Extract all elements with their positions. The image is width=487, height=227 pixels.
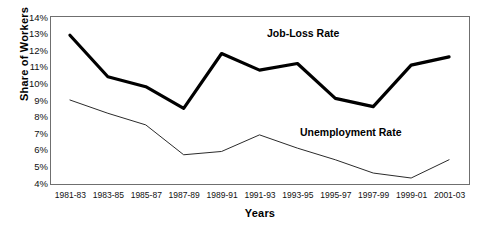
y-tick-label: 8% <box>14 112 48 122</box>
job-loss-unemployment-line-chart: Share of Workers 14%13%12%11%10%9%8%7%6%… <box>0 0 487 227</box>
x-tick-label: 1981-83 <box>55 190 86 200</box>
plot-area <box>50 16 470 185</box>
x-tick-label: 1995-97 <box>320 190 351 200</box>
y-tick-label: 11% <box>14 62 48 72</box>
x-tick-label: 1985-87 <box>131 190 162 200</box>
unemployment-rate-label: Unemployment Rate <box>300 126 402 138</box>
y-axis-tick-labels: 14%13%12%11%10%9%8%7%6%5%4% <box>8 0 48 227</box>
x-axis-tick-labels: 1981-831983-851985-871987-891989-911991-… <box>50 190 470 204</box>
y-tick-label: 13% <box>14 29 48 39</box>
x-tick-label: 1999-01 <box>396 190 427 200</box>
y-tick-label: 7% <box>14 129 48 139</box>
x-tick-label: 2001-03 <box>434 190 465 200</box>
y-tick-label: 6% <box>14 145 48 155</box>
x-tick-label: 1997-99 <box>358 190 389 200</box>
series-lines <box>51 17 468 183</box>
y-tick-label: 5% <box>14 162 48 172</box>
x-tick-label: 1987-89 <box>169 190 200 200</box>
y-tick-label: 12% <box>14 46 48 56</box>
y-tick-label: 10% <box>14 79 48 89</box>
x-tick-label: 1989-91 <box>206 190 237 200</box>
job-loss-rate-line <box>70 35 449 108</box>
job-loss-rate-label: Job-Loss Rate <box>267 27 339 39</box>
x-tick-label: 1991-93 <box>244 190 275 200</box>
x-tick-label: 1993-95 <box>282 190 313 200</box>
unemployment-rate-line <box>70 100 449 178</box>
y-tick-label: 4% <box>14 179 48 189</box>
x-tick-label: 1983-85 <box>93 190 124 200</box>
x-axis-title: Years <box>50 207 470 219</box>
y-tick-label: 14% <box>14 13 48 23</box>
y-tick-label: 9% <box>14 96 48 106</box>
